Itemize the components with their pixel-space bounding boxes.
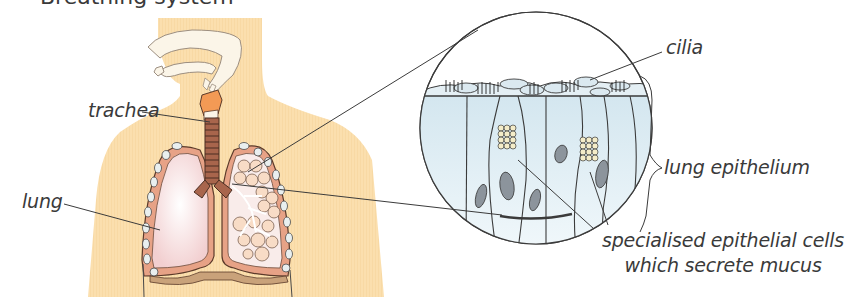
label-specialised-line2: which secrete mucus	[596, 253, 850, 278]
label-lung: lung	[22, 190, 63, 212]
magnified-epithelium	[420, 12, 660, 252]
label-specialised-cells: specialised epithelial cells which secre…	[596, 228, 850, 278]
label-specialised-line1: specialised epithelial cells	[596, 228, 850, 253]
respiratory-diagram: Breathing system	[0, 0, 853, 297]
label-lung-epithelium: lung epithelium	[664, 156, 810, 178]
label-cilia: cilia	[666, 36, 703, 58]
label-trachea: trachea	[88, 99, 159, 121]
